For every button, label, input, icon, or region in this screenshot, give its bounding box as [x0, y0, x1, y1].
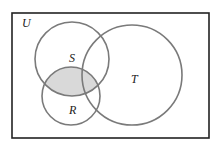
venn-diagram: U S R T [0, 0, 216, 144]
universe-label: U [22, 16, 32, 30]
universe-rectangle [12, 13, 209, 138]
set-r-label: R [68, 103, 77, 117]
set-s-label: S [69, 51, 75, 65]
